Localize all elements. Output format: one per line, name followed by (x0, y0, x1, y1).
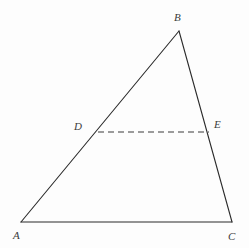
vertex-label-d: D (74, 121, 82, 132)
vertex-label-a: A (13, 230, 20, 241)
triangle-diagram-canvas (0, 0, 249, 248)
vertex-label-e: E (214, 119, 221, 130)
vertex-label-b: B (174, 12, 181, 23)
geometry-figure: A B C D E (0, 0, 249, 248)
vertex-label-c: C (228, 231, 235, 242)
diagram-background (0, 0, 249, 248)
